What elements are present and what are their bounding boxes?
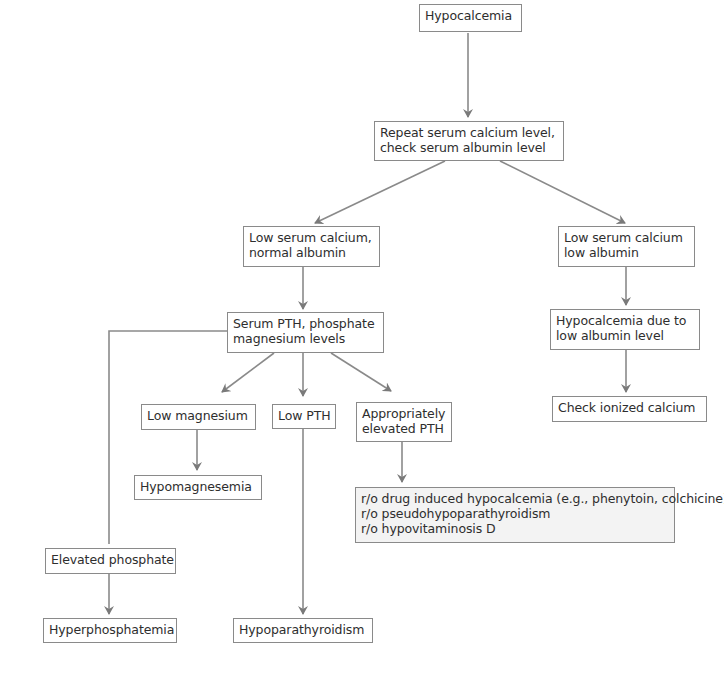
node-text: Low serum calcium,	[249, 230, 374, 245]
node-text: Serum PTH, phosphate	[233, 316, 378, 331]
node-text: Repeat serum calcium level,	[380, 125, 558, 140]
arrow-serum-pth-to-low-mg	[222, 353, 274, 392]
node-text: Low serum calcium	[564, 230, 689, 245]
node-rule-out-list: r/o drug induced hypocalcemia (e.g., phe…	[355, 487, 675, 543]
node-hypomagnesemia: Hypomagnesemia	[134, 475, 262, 500]
node-hypocalcemia-due-to-albumin: Hypocalcemia due to low albumin level	[550, 309, 700, 350]
node-appropriately-elevated-pth: Appropriately elevated PTH	[356, 402, 452, 442]
node-low-pth: Low PTH	[272, 404, 336, 429]
node-text: Appropriately	[362, 406, 446, 421]
node-text: Low magnesium	[147, 408, 250, 423]
node-low-calcium-low-albumin: Low serum calcium low albumin	[558, 226, 695, 267]
node-check-ionized-calcium: Check ionized calcium	[552, 396, 707, 422]
arrow-repeat-to-low-albumin	[500, 161, 625, 223]
line-serum-pth-to-elevated-phosphate	[109, 331, 227, 544]
node-text: low albumin	[564, 245, 689, 260]
node-elevated-phosphate: Elevated phosphate	[45, 548, 176, 574]
node-hypocalcemia: Hypocalcemia	[419, 4, 522, 32]
node-repeat-serum-calcium: Repeat serum calcium level, check serum …	[374, 121, 564, 161]
node-text: Hyperphosphatemia	[49, 622, 171, 637]
arrow-repeat-to-normal-albumin	[315, 161, 445, 223]
node-text: elevated PTH	[362, 421, 446, 436]
node-text: Check ionized calcium	[558, 400, 701, 415]
node-text: Hypocalcemia due to	[556, 313, 694, 328]
node-hypoparathyroidism: Hypoparathyroidism	[233, 618, 373, 643]
node-low-magnesium: Low magnesium	[141, 404, 256, 430]
node-text: low albumin level	[556, 328, 694, 343]
node-text: Hypoparathyroidism	[239, 622, 367, 637]
node-hyperphosphatemia: Hyperphosphatemia	[43, 618, 177, 643]
node-text: Elevated phosphate	[51, 552, 170, 567]
arrow-serum-pth-to-elevated-pth	[331, 353, 391, 391]
node-serum-pth-phosphate-magnesium: Serum PTH, phosphate magnesium levels	[227, 312, 384, 353]
node-text: r/o drug induced hypocalcemia (e.g., phe…	[361, 491, 669, 506]
node-text: r/o pseudohypoparathyroidism	[361, 506, 669, 521]
node-text: check serum albumin level	[380, 140, 558, 155]
node-text: Hypocalcemia	[425, 8, 516, 23]
node-text: magnesium levels	[233, 331, 378, 346]
node-text: Low PTH	[278, 408, 330, 423]
node-text: r/o hypovitaminosis D	[361, 521, 669, 536]
node-text: normal albumin	[249, 245, 374, 260]
node-low-calcium-normal-albumin: Low serum calcium, normal albumin	[243, 226, 380, 267]
node-text: Hypomagnesemia	[140, 479, 256, 494]
